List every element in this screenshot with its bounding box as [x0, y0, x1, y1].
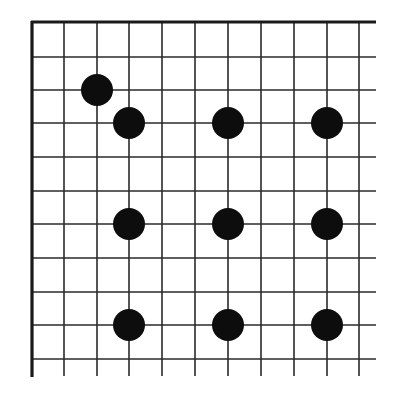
go-board: [0, 0, 395, 396]
black-stone: [212, 208, 244, 240]
black-stone: [113, 107, 145, 139]
stones: [81, 74, 343, 341]
black-stone: [81, 74, 113, 106]
black-stone: [311, 309, 343, 341]
go-board-diagram: [0, 0, 395, 396]
black-stone: [311, 208, 343, 240]
black-stone: [113, 309, 145, 341]
black-stone: [311, 107, 343, 139]
black-stone: [113, 208, 145, 240]
black-stone: [212, 309, 244, 341]
black-stone: [212, 107, 244, 139]
